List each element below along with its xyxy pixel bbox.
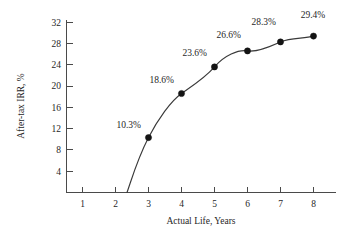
data-point-8 <box>310 33 316 39</box>
data-point-6 <box>244 48 250 54</box>
y-tick-label-4: 4 <box>56 167 61 177</box>
x-tick-label-5: 5 <box>212 199 217 209</box>
point-label-7: 28.3% <box>251 17 276 27</box>
data-point-4 <box>178 90 184 96</box>
y-tick-label-20: 20 <box>52 81 62 91</box>
data-point-3 <box>145 135 151 141</box>
irr-curve <box>127 36 314 192</box>
data-point-5 <box>211 64 217 70</box>
y-axis-title: After-tax IRR, % <box>16 73 26 139</box>
point-label-4: 18.6% <box>149 75 174 85</box>
y-tick-label-12: 12 <box>52 124 62 134</box>
x-tick-label-8: 8 <box>311 199 316 209</box>
point-labels-group: 10.3% 18.6% 23.6% 26.6% 28.3% 29.4% <box>116 10 325 130</box>
y-tick-label-16: 16 <box>52 103 62 113</box>
x-tick-label-2: 2 <box>113 199 118 209</box>
data-points-group <box>145 33 316 141</box>
x-tick-label-4: 4 <box>179 199 184 209</box>
x-tick-labels-group: 1 2 3 4 5 6 7 8 <box>80 199 316 209</box>
y-tick-label-24: 24 <box>52 60 62 70</box>
y-tick-labels-group: 4 8 12 16 20 24 28 32 <box>52 18 62 177</box>
data-point-7 <box>277 39 283 45</box>
x-ticks-group <box>83 187 314 193</box>
point-label-5: 23.6% <box>182 48 207 58</box>
x-tick-label-7: 7 <box>278 199 283 209</box>
y-tick-label-32: 32 <box>52 18 62 28</box>
point-label-8: 29.4% <box>301 10 326 20</box>
irr-chart: 4 8 12 16 20 24 28 32 1 2 3 4 5 6 <box>0 0 345 240</box>
x-tick-label-6: 6 <box>245 199 250 209</box>
x-tick-label-1: 1 <box>80 199 85 209</box>
chart-canvas: 4 8 12 16 20 24 28 32 1 2 3 4 5 6 <box>0 0 345 240</box>
y-tick-label-28: 28 <box>52 39 62 49</box>
point-label-6: 26.6% <box>216 30 241 40</box>
axes-group <box>67 20 337 193</box>
y-tick-label-8: 8 <box>56 145 61 155</box>
x-tick-label-3: 3 <box>146 199 151 209</box>
y-ticks-group <box>67 22 73 171</box>
point-label-3: 10.3% <box>116 120 141 130</box>
x-axis-title: Actual Life, Years <box>166 216 235 226</box>
